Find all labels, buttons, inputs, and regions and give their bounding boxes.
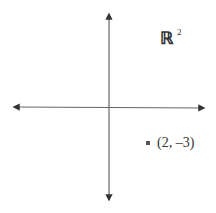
coordinate-plane	[0, 0, 216, 213]
space-exponent: 2	[177, 27, 182, 37]
point-label: (2, –3)	[157, 135, 194, 151]
space-symbol: ℝ	[160, 29, 173, 48]
point-marker	[146, 141, 150, 145]
space-label: ℝ2	[160, 28, 182, 49]
